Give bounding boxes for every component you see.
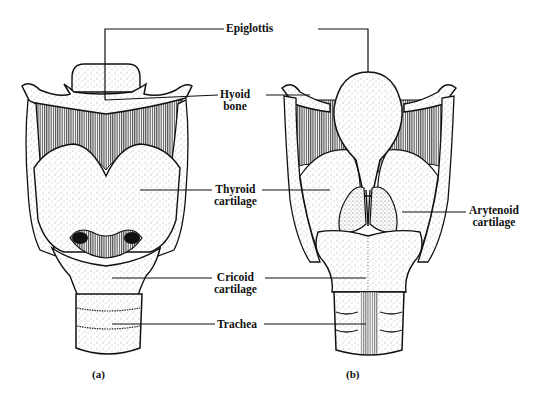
anterior-view [22, 64, 192, 354]
label-thyroid-line1: Thyroid [214, 183, 257, 195]
label-cricoid-line1: Cricoid [214, 271, 257, 283]
label-hyoid-bone: Hyoid bone [218, 88, 252, 112]
label-cricoid-line2: cartilage [214, 283, 257, 295]
larynx-illustration [0, 0, 544, 399]
label-epiglottis: Epiglottis [224, 22, 275, 34]
caption-b: (b) [346, 368, 359, 380]
larynx-diagram: Epiglottis Hyoid bone Thyroid cartilage … [0, 0, 544, 399]
label-trachea: Trachea [215, 318, 259, 330]
label-arytenoid-cartilage: Arytenoid cartilage [467, 204, 521, 228]
label-hyoid-line1: Hyoid [220, 88, 250, 100]
caption-a: (a) [92, 368, 105, 380]
label-cricoid-cartilage: Cricoid cartilage [212, 271, 259, 295]
label-thyroid-line2: cartilage [214, 195, 257, 207]
label-arytenoid-line2: cartilage [469, 216, 519, 228]
label-arytenoid-line1: Arytenoid [469, 204, 519, 216]
label-hyoid-line2: bone [220, 100, 250, 112]
label-thyroid-cartilage: Thyroid cartilage [212, 183, 259, 207]
posterior-view [282, 72, 456, 355]
